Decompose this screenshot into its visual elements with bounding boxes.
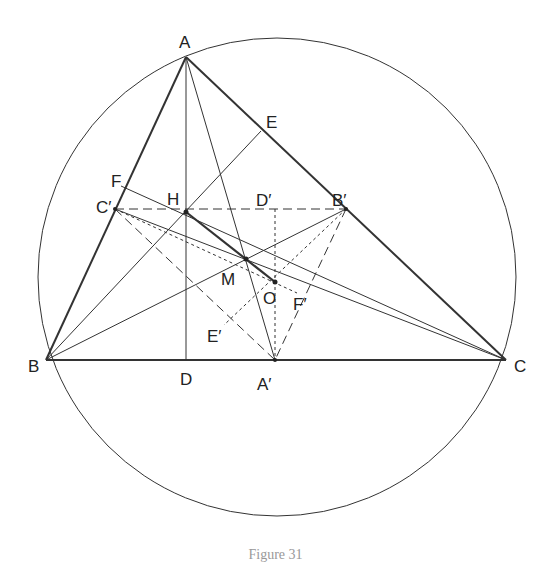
- dotted-cp-fp: [115, 209, 297, 293]
- median-b: [46, 209, 346, 360]
- median-c: [115, 209, 506, 360]
- figure-caption: Figure 31: [0, 547, 551, 563]
- point-ap: [273, 358, 277, 362]
- circumcircle: [38, 38, 516, 516]
- point-cp: [113, 207, 117, 211]
- label-c: C: [514, 357, 526, 376]
- label-dp: D′: [256, 191, 271, 210]
- dotted-bp-ep: [224, 209, 346, 325]
- point-h: [184, 210, 189, 215]
- label-ep: E′: [207, 327, 222, 346]
- altitude-cf: [121, 186, 506, 360]
- label-b: B: [28, 357, 39, 376]
- point-o: [273, 280, 278, 285]
- label-f: F: [111, 172, 121, 191]
- label-h: H: [167, 190, 179, 209]
- label-o: O: [263, 289, 276, 308]
- label-d: D: [180, 370, 192, 389]
- label-ap: A′: [257, 375, 272, 394]
- label-e: E: [266, 113, 277, 132]
- point-m: [244, 257, 249, 262]
- label-m: M: [221, 270, 235, 289]
- label-bp: B′: [332, 191, 347, 210]
- label-a: A: [179, 33, 191, 52]
- label-fp: F′: [293, 295, 307, 314]
- label-cp: C′: [96, 198, 111, 217]
